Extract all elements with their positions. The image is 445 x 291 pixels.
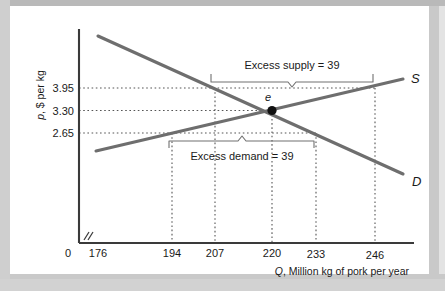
- excess-supply-brace: [211, 74, 373, 87]
- figure-root: e 3.95 3.30 2.65 0 176 194 207 220 233 2…: [0, 0, 445, 291]
- x-tick-labels: 0 176 194 207 220 233 246: [65, 247, 384, 261]
- excess-demand-annotation: Excess demand = 39: [169, 136, 314, 162]
- y-tick-label-0: 3.95: [53, 82, 74, 94]
- y-tick-labels: 3.95 3.30 2.65: [53, 82, 74, 139]
- x-tick-label-246: 246: [366, 249, 384, 261]
- x-tick-label-176: 176: [89, 247, 107, 259]
- axis-break-mark: [84, 232, 93, 240]
- y-axis-title: p, $ per kg: [34, 70, 46, 121]
- svg-text:p, $ per kg: p, $ per kg: [34, 70, 46, 121]
- x-tick-label-233: 233: [307, 248, 325, 260]
- x-tick-label-194: 194: [163, 247, 181, 259]
- x-axis-title-symbol: Q: [275, 265, 283, 277]
- x-tick-label-220: 220: [263, 247, 281, 259]
- x-tick-label-0: 0: [65, 247, 71, 259]
- y-axis-title-rest: , $ per kg: [34, 70, 46, 114]
- supply-curve-label: S: [411, 71, 420, 86]
- equilibrium-point-marker: [267, 106, 276, 115]
- excess-demand-label: Excess demand = 39: [190, 150, 293, 162]
- y-tick-label-2: 2.65: [53, 127, 74, 139]
- y-tick-label-1: 3.30: [53, 105, 74, 117]
- supply-curve: [96, 79, 403, 151]
- x-axis-title-rest: , Million kg of pork per year: [283, 265, 410, 277]
- excess-supply-label: Excess supply = 39: [244, 59, 339, 71]
- x-axis-title: Q, Million kg of pork per year: [275, 265, 410, 277]
- demand-curve-label: D: [412, 174, 421, 189]
- excess-demand-brace: [169, 136, 314, 148]
- excess-supply-annotation: Excess supply = 39: [211, 59, 373, 87]
- supply-demand-chart: e 3.95 3.30 2.65 0 176 194 207 220 233 2…: [0, 0, 445, 291]
- equilibrium-point-label: e: [265, 91, 271, 103]
- x-tick-label-207: 207: [206, 247, 224, 259]
